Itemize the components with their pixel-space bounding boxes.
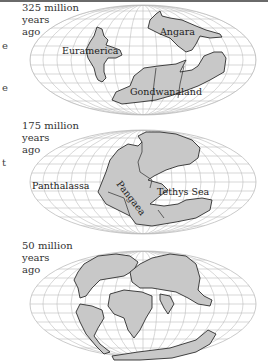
era-label-50mya: 50 million years ago [22,240,73,276]
map-panel-50mya: 50 million years ago [0,238,268,362]
map-panel-175mya: Panthalassa Pangaea Tethys Sea 175 milli… [0,118,268,238]
era-label-325mya: 325 million years ago [22,2,79,38]
label-tethys-sea: Tethys Sea [157,186,210,197]
landmass-africa [108,290,152,338]
label-angara: Angara [159,26,195,37]
label-panthalassa: Panthalassa [32,180,90,191]
label-gondwanaland: Gondwanaland [130,86,202,97]
landmass-pangaea [98,132,212,226]
era-label-175mya: 175 million years ago [22,120,79,156]
map-panel-325mya: Euramerica Angara Gondwanaland 325 milli… [0,0,268,118]
label-euramerica: Euramerica [62,45,119,56]
landmass-antarctica-australia [112,330,216,360]
